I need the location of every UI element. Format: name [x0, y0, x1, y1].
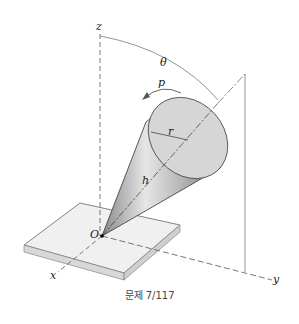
arrowhead-icon — [142, 92, 150, 100]
y-axis-label: y — [273, 273, 279, 286]
cone-diagram — [0, 0, 299, 324]
z-axis-label: z — [96, 20, 102, 33]
p-label: p — [158, 76, 165, 89]
origin-point — [100, 234, 104, 238]
r-label: r — [168, 125, 173, 138]
x-axis-label: x — [50, 269, 56, 282]
h-label: h — [142, 174, 149, 187]
figure-caption: 문제 7/117 — [0, 287, 299, 302]
cone-axis-extension — [218, 74, 245, 103]
theta-label: θ — [160, 56, 167, 69]
theta-arc — [100, 36, 218, 100]
base-plate — [24, 203, 180, 280]
origin-label: O — [90, 228, 99, 241]
